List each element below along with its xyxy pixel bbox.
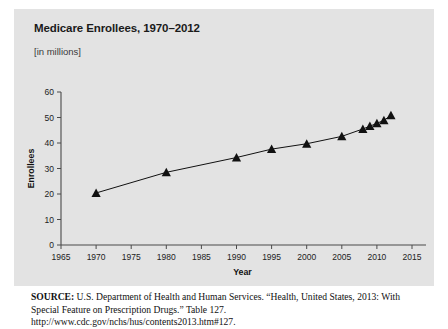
x-axis-ticks: 1965197019751980198519901995200020052010… <box>52 245 422 262</box>
x-tick-label: 1965 <box>52 252 71 262</box>
source-text: U.S. Department of Health and Human Serv… <box>31 291 400 327</box>
data-point-marker <box>379 116 388 125</box>
y-axis-ticks: 0102030405060 <box>45 87 61 250</box>
x-tick-label: 1995 <box>262 252 281 262</box>
y-tick-label: 40 <box>45 138 55 148</box>
x-tick-label: 1990 <box>227 252 246 262</box>
y-tick-label: 20 <box>45 189 55 199</box>
x-tick-label: 2005 <box>332 252 351 262</box>
data-series-line <box>96 115 391 193</box>
x-axis-title: Year <box>233 267 252 277</box>
y-tick-label: 0 <box>49 240 54 250</box>
y-tick-label: 50 <box>45 113 55 123</box>
x-tick-label: 1985 <box>192 252 211 262</box>
x-tick-label: 1970 <box>87 252 106 262</box>
figure-container: Medicare Enrollees, 1970–2012 [in millio… <box>0 0 448 329</box>
x-tick-label: 1975 <box>122 252 141 262</box>
y-tick-label: 60 <box>45 87 55 97</box>
data-point-markers <box>92 111 396 197</box>
source-label: SOURCE: <box>31 291 74 302</box>
x-tick-label: 1980 <box>157 252 176 262</box>
line-chart: 0102030405060 19651970197519801985199019… <box>14 9 434 286</box>
x-tick-label: 2000 <box>297 252 316 262</box>
data-point-marker <box>337 132 346 141</box>
x-tick-label: 2015 <box>403 252 422 262</box>
y-axis-title: Enrollees <box>26 149 36 189</box>
y-tick-label: 10 <box>45 215 55 225</box>
data-point-marker <box>92 188 101 197</box>
source-note: SOURCE: U.S. Department of Health and Hu… <box>31 291 425 329</box>
data-point-marker <box>386 111 395 120</box>
y-tick-label: 30 <box>45 164 55 174</box>
x-tick-label: 2010 <box>367 252 386 262</box>
